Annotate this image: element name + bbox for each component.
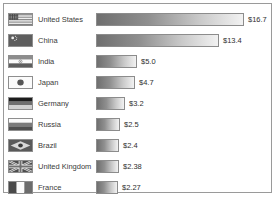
bar: [96, 13, 244, 26]
bar-value-label: $5.0: [141, 55, 156, 68]
country-label: Russia: [38, 118, 61, 131]
chart-row: China$13.4: [4, 31, 271, 52]
chart-row: France$2.27: [4, 178, 271, 199]
bar: [96, 181, 118, 194]
bar-value-label: $3.2: [129, 97, 144, 110]
country-label: Brazil: [38, 139, 57, 152]
bar: [96, 34, 219, 47]
flag-france-icon: [8, 181, 33, 194]
chart-row: India$5.0: [4, 52, 271, 73]
bar: [96, 76, 135, 89]
chart-row: Russia$2.5: [4, 115, 271, 136]
bar: [96, 118, 120, 131]
bar-value-label: $2.38: [123, 160, 142, 173]
chart-frame: United States$16.7China$13.4India$5.0Jap…: [3, 3, 272, 193]
bar: [96, 139, 119, 152]
flag-russia-icon: [8, 118, 33, 131]
bar: [96, 97, 125, 110]
flag-brazil-icon: [8, 139, 33, 152]
chart-row: United Kingdom$2.38: [4, 157, 271, 178]
chart-row: Brazil$2.4: [4, 136, 271, 157]
flag-germany-icon: [8, 97, 33, 110]
country-label: United Kingdom: [38, 160, 91, 173]
country-label: Japan: [38, 76, 58, 89]
country-label: Germany: [38, 97, 69, 110]
country-label: France: [38, 181, 61, 194]
bar: [96, 160, 119, 173]
bar-value-label: $2.5: [124, 118, 139, 131]
bar-value-label: $2.4: [123, 139, 138, 152]
flag-china-icon: [8, 34, 33, 47]
bar-value-label: $2.27: [122, 181, 141, 194]
bar-chart-rows: United States$16.7China$13.4India$5.0Jap…: [4, 4, 271, 192]
chart-row: United States$16.7: [4, 10, 271, 31]
flag-india-icon: [8, 55, 33, 68]
bar: [96, 55, 137, 68]
flag-united-kingdom-icon: [8, 160, 33, 173]
country-label: India: [38, 55, 54, 68]
flag-united-states-icon: [8, 13, 33, 26]
bar-value-label: $4.7: [139, 76, 154, 89]
country-label: China: [38, 34, 58, 47]
chart-row: Germany$3.2: [4, 94, 271, 115]
chart-row: Japan$4.7: [4, 73, 271, 94]
flag-japan-icon: [8, 76, 33, 89]
bar-value-label: $16.7: [248, 13, 267, 26]
bar-value-label: $13.4: [223, 34, 242, 47]
country-label: United States: [38, 13, 83, 26]
